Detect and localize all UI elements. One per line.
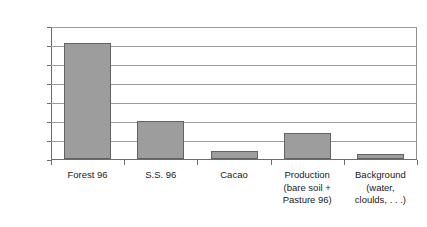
y-tick-mark [47, 65, 51, 66]
x-tick-mark [271, 160, 272, 165]
bar [284, 133, 331, 159]
bar [357, 154, 404, 159]
y-tick-mark [47, 122, 51, 123]
x-tick-mark [124, 160, 125, 165]
x-axis-line [51, 159, 417, 160]
x-axis-category-label: Background (water, cloulds, . . .) [344, 169, 417, 207]
x-tick-mark [417, 160, 418, 165]
y-tick-mark [47, 46, 51, 47]
x-axis-category-label: S.S. 96 [124, 169, 197, 182]
x-axis-category-label: Cacao [197, 169, 270, 182]
gridline [51, 27, 417, 28]
x-tick-mark [51, 160, 52, 165]
plot-area: 010203040506070 Forest 96S.S. 96CacaoPro… [51, 27, 417, 160]
bar [64, 43, 111, 159]
x-axis-category-label: Production (bare soil + Pasture 96) [271, 169, 344, 207]
bar [211, 151, 258, 159]
x-axis-category-label: Forest 96 [51, 169, 124, 182]
bar-chart-figure: Percentage of total colonization area 01… [0, 0, 427, 227]
y-tick-mark [47, 103, 51, 104]
x-tick-mark [197, 160, 198, 165]
y-tick-mark [47, 141, 51, 142]
bar [137, 121, 184, 159]
y-tick-mark [47, 27, 51, 28]
y-tick-mark [47, 84, 51, 85]
x-tick-mark [344, 160, 345, 165]
